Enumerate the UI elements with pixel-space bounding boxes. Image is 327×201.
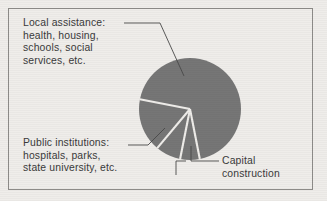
figure-page: Local assistance: health, housing, schoo… [0, 0, 327, 201]
leader-line-bottom-wedge [176, 161, 186, 175]
label-public-institutions: Public institutions: hospitals, parks, s… [23, 137, 117, 175]
label-capital-construction: Capital construction [222, 155, 280, 180]
label-local-assistance: Local assistance: health, housing, schoo… [23, 17, 105, 67]
